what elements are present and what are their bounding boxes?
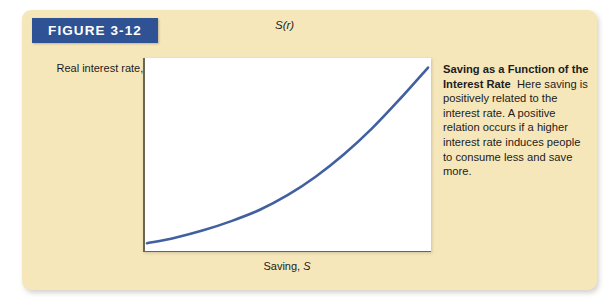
curve-label: S(r) (275, 19, 294, 31)
y-axis-title: Real interest rate, r (34, 62, 150, 74)
x-axis-line (143, 251, 431, 253)
figure-card: FIGURE 3-12 Real interest rate, r S(r) S… (22, 10, 597, 290)
figure-number-label: FIGURE 3-12 (48, 23, 142, 38)
y-axis-line (143, 58, 145, 252)
figure-caption: Saving as a Function of the Interest Rat… (443, 62, 589, 179)
figure-number-banner: FIGURE 3-12 (32, 18, 158, 43)
figure-caption-body: Here saving is positively related to the… (443, 78, 588, 178)
x-axis-title-variable: S (303, 260, 310, 272)
x-axis-title: Saving, S (143, 260, 431, 272)
x-axis-title-text: Saving, (263, 260, 303, 272)
plot-area (143, 58, 431, 252)
saving-curve-line (147, 68, 428, 244)
saving-curve-chart (143, 58, 431, 252)
y-axis-title-text: Real interest rate, (56, 62, 146, 74)
